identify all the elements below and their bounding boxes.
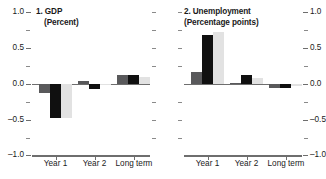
ytick-minor-unemp-0.25 <box>304 66 308 67</box>
panel-gdp: 1. GDP (Percent) 1.0 0.5 0.0 <box>0 0 161 179</box>
ytick-unemp--0.5 <box>303 120 308 121</box>
ytick-right-gdp-1.0 <box>152 12 156 13</box>
ytick-right-gdp-0.75 <box>152 30 156 31</box>
bar-gdp-longterm-series2 <box>128 75 139 84</box>
bar-gdp-year2-series3 <box>100 84 111 85</box>
bar-unemp-year2-series3 <box>252 78 263 85</box>
ylabel-unemp-0.0: 0.0 <box>310 80 321 88</box>
bar-gdp-longterm-series1 <box>117 75 128 84</box>
bar-unemp-year1-series1 <box>191 72 202 84</box>
ylabel-gdp-0.0: 0.0 <box>13 80 24 88</box>
ytick-minor-gdp--0.75 <box>26 138 30 139</box>
ytick-unemp-0.5 <box>303 48 308 49</box>
bar-gdp-year2-series1 <box>78 81 89 84</box>
ytick-gdp-0.0 <box>26 84 31 85</box>
xlabel-unemp-longterm: Long term <box>260 160 312 168</box>
ytick-gdp-0.5 <box>26 48 31 49</box>
bar-gdp-longterm-series3 <box>139 77 150 84</box>
bar-gdp-year1-series2 <box>50 84 61 118</box>
bar-gdp-year1-series1 <box>39 84 50 93</box>
ytick-unemp-0.0 <box>303 84 308 85</box>
ytick-minor-unemp--0.25 <box>304 102 308 103</box>
ytick-left-unemp-0.25 <box>178 66 182 67</box>
ytick-gdp-1.0 <box>26 12 31 13</box>
ytick-minor-gdp--0.25 <box>26 102 30 103</box>
ylabel-unemp-0.5: 0.5 <box>310 44 321 52</box>
ylabel-unemp-1.0: 1.0 <box>310 8 321 16</box>
ytick-left-unemp-0.75 <box>178 30 182 31</box>
x-axis-unemployment <box>184 155 302 156</box>
ylabel-gdp-0.5: 0.5 <box>13 44 24 52</box>
ytick-left-unemp--0.5 <box>178 120 182 121</box>
ytick-minor-unemp-0.75 <box>304 30 308 31</box>
ytick-right-gdp--0.75 <box>152 138 156 139</box>
plot-area-unemployment: 1.0 0.5 0.0 –0.5 –1.0 <box>184 12 302 156</box>
ytick-unemp-1.0 <box>303 12 308 13</box>
ytick-left-unemp-1.0 <box>178 12 182 13</box>
ytick-minor-gdp-0.25 <box>26 66 30 67</box>
ytick-minor-gdp-0.75 <box>26 30 30 31</box>
bar-unemp-year2-series2 <box>241 75 252 84</box>
ytick-right-gdp-0.25 <box>152 66 156 67</box>
ytick-right-gdp--0.25 <box>152 102 156 103</box>
ytick-left-unemp--0.75 <box>178 138 182 139</box>
bar-unemp-longterm-series2 <box>280 84 291 88</box>
ylabel-unemp--1.0: –1.0 <box>310 151 326 159</box>
ytick-minor-unemp--0.75 <box>304 138 308 139</box>
ytick-gdp--1.0 <box>26 155 31 156</box>
ylabel-gdp--0.5: –0.5 <box>8 116 24 124</box>
ytick-left-unemp-0.5 <box>178 48 182 49</box>
ytick-gdp--0.5 <box>26 120 31 121</box>
bar-unemp-year1-series3 <box>213 32 224 84</box>
ytick-unemp--1.0 <box>303 155 308 156</box>
bar-unemp-longterm-series1 <box>269 84 280 88</box>
ytick-right-gdp--0.5 <box>152 120 156 121</box>
ytick-right-gdp-0.5 <box>152 48 156 49</box>
bar-unemp-year2-series1 <box>230 83 241 84</box>
ylabel-gdp-1.0: 1.0 <box>13 8 24 16</box>
ytick-left-unemp--0.25 <box>178 102 182 103</box>
xlabel-gdp-longterm: Long term <box>108 160 160 168</box>
ylabel-gdp--1.0: –1.0 <box>8 151 24 159</box>
bar-unemp-year1-series2 <box>202 35 213 84</box>
bar-gdp-year2-series2 <box>89 84 100 89</box>
plot-area-gdp: 1.0 0.5 0.0 –0.5 –1.0 <box>32 12 150 156</box>
bar-gdp-year1-series3 <box>61 84 72 118</box>
bar-unemp-longterm-series3 <box>291 84 302 86</box>
ylabel-unemp--0.5: –0.5 <box>310 116 326 124</box>
x-axis-gdp <box>32 155 150 156</box>
panel-unemployment: 2. Unemployment (Percentage points) 1.0 <box>161 0 323 179</box>
